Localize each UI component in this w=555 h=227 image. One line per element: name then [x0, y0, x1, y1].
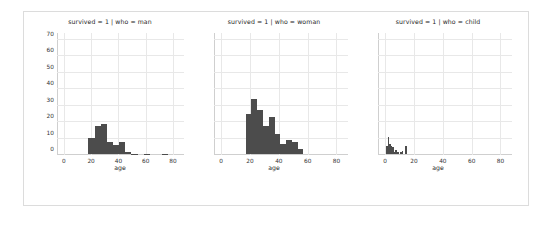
y-tick-label: 20: [47, 113, 54, 119]
y-tick-label: 0: [50, 146, 54, 152]
x-axis-label-woman: age: [192, 164, 356, 171]
histogram-bars-child: [378, 33, 512, 155]
y-tick-label: 30: [47, 97, 54, 103]
figure-frame: survived = 1 | who = man 010203040506070…: [23, 11, 529, 206]
histogram-bar: [405, 146, 407, 154]
y-tick-label: 60: [47, 47, 54, 53]
y-tick-label: 50: [47, 64, 54, 70]
facet-panel-child: survived = 1 | who = child 020406080 age: [356, 12, 520, 205]
histogram-bar: [298, 149, 304, 154]
y-tick-label: 40: [47, 80, 54, 86]
plot-area-child: 020406080: [378, 33, 512, 155]
panel-title-child: survived = 1 | who = child: [356, 18, 520, 25]
histogram-bars-man: [57, 33, 184, 155]
histogram-bars-woman: [214, 33, 348, 155]
panel-title-man: survived = 1 | who = man: [28, 18, 192, 25]
plot-area-woman: 020406080: [214, 33, 348, 155]
plot-area-man: 010203040506070 020406080: [57, 33, 184, 155]
x-axis-label-child: age: [356, 164, 520, 171]
facet-panel-man: survived = 1 | who = man 010203040506070…: [28, 12, 192, 205]
x-axis-label-man: age: [28, 164, 192, 171]
panel-title-woman: survived = 1 | who = woman: [192, 18, 356, 25]
facet-grid: survived = 1 | who = man 010203040506070…: [24, 12, 528, 205]
y-tick-label: 10: [47, 130, 54, 136]
histogram-bar: [397, 152, 399, 154]
y-tick-label: 70: [47, 31, 54, 37]
facet-panel-woman: survived = 1 | who = woman 020406080 age: [192, 12, 356, 205]
histogram-bar: [402, 151, 404, 154]
